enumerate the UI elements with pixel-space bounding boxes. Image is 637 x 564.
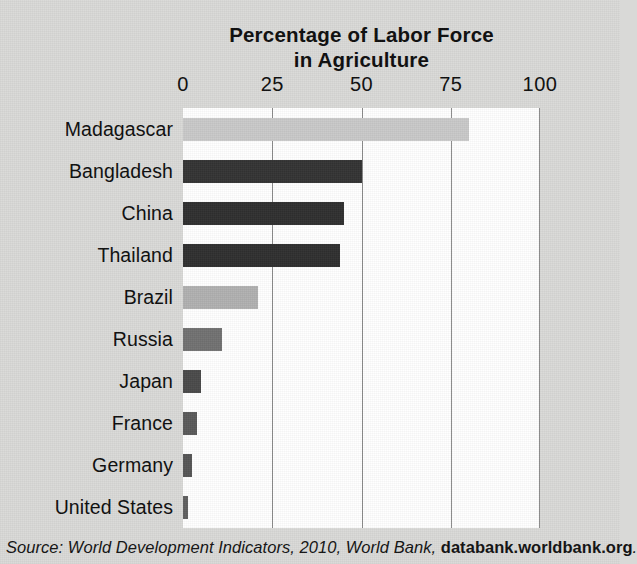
plot-area — [183, 108, 540, 528]
chart-title: Percentage of Labor Force in Agriculture — [183, 22, 540, 72]
category-label-france: France — [112, 402, 173, 444]
bar-madagascar[interactable] — [183, 118, 469, 141]
bar-brazil[interactable] — [183, 286, 258, 309]
chart-title-line-1: Percentage of Labor Force — [183, 22, 540, 47]
bar-row — [183, 192, 540, 234]
x-tick-label-25: 25 — [261, 73, 284, 96]
category-label-russia: Russia — [113, 318, 173, 360]
category-label-brazil: Brazil — [124, 276, 173, 318]
category-label-bangladesh: Bangladesh — [69, 150, 173, 192]
bar-row — [183, 402, 540, 444]
x-tick-label-0: 0 — [177, 73, 189, 96]
x-tick-label-50: 50 — [350, 73, 373, 96]
bar-row — [183, 360, 540, 402]
category-label-germany: Germany — [92, 444, 173, 486]
category-label-thailand: Thailand — [97, 234, 173, 276]
bar-row — [183, 276, 540, 318]
source-note: Source: World Development Indicators, 20… — [6, 538, 637, 557]
x-tick-label-100: 100 — [523, 73, 558, 96]
x-axis-tick-labels: 0255075100 — [0, 73, 620, 101]
bar-russia[interactable] — [183, 328, 222, 351]
source-note-text: Source: World Development Indicators, 20… — [6, 538, 441, 556]
bar-row — [183, 318, 540, 360]
x-tick-label-75: 75 — [439, 73, 462, 96]
source-note-url[interactable]: databank.worldbank.org — [441, 538, 633, 556]
category-label-japan: Japan — [119, 360, 173, 402]
source-note-period: . — [633, 538, 637, 556]
bar-row — [183, 486, 540, 528]
bar-china[interactable] — [183, 202, 344, 225]
y-axis-category-labels: MadagascarBangladeshChinaThailandBrazilR… — [0, 108, 178, 528]
bar-france[interactable] — [183, 412, 197, 435]
chart-title-line-2: in Agriculture — [183, 47, 540, 72]
bar-row — [183, 444, 540, 486]
category-label-united-states: United States — [55, 486, 173, 528]
category-label-madagascar: Madagascar — [65, 108, 173, 150]
bar-row — [183, 108, 540, 150]
bar-row — [183, 150, 540, 192]
bar-united-states[interactable] — [183, 496, 188, 519]
bar-japan[interactable] — [183, 370, 201, 393]
bar-thailand[interactable] — [183, 244, 340, 267]
bar-germany[interactable] — [183, 454, 192, 477]
bar-bangladesh[interactable] — [183, 160, 362, 183]
bar-row — [183, 234, 540, 276]
category-label-china: China — [122, 192, 173, 234]
